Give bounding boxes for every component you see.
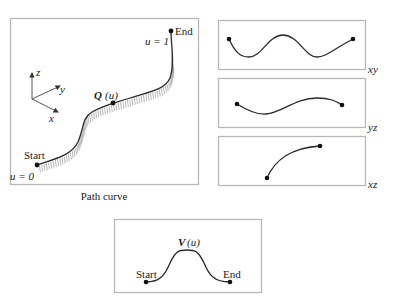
projection-yz-frame	[219, 79, 366, 128]
hatch-line	[130, 99, 131, 106]
velocity-symbol: V	[178, 236, 187, 248]
velocity-start-label: Start	[136, 268, 157, 280]
hatch-line	[127, 100, 128, 107]
hatch-line	[120, 102, 121, 109]
projection-yz-start	[235, 102, 240, 107]
hatch-line	[86, 121, 87, 128]
hatch-line	[90, 115, 91, 122]
hatch-line	[161, 88, 162, 95]
path-curve-caption: Path curve	[81, 190, 128, 202]
hatch-line	[80, 139, 81, 146]
hatch-line	[132, 99, 133, 106]
hatch-line	[102, 108, 103, 115]
velocity-curve	[146, 250, 230, 282]
projection-xz-start	[265, 176, 270, 181]
hatch-line	[169, 82, 170, 89]
projection-yz-label: yz	[367, 121, 378, 133]
u-start-label: u = 0	[10, 170, 34, 182]
end-label: End	[175, 25, 193, 37]
hatch-line	[53, 161, 54, 168]
path-curve-diagram: Start u = 0 End u = 1 Q (u) z y x Path c…	[0, 0, 393, 299]
hatch-line	[153, 92, 154, 99]
start-label: Start	[24, 149, 45, 161]
hatch-line	[60, 158, 61, 165]
hatch-line	[92, 114, 93, 121]
projection-xz-end	[318, 144, 323, 149]
hatch-line	[111, 105, 112, 112]
hatch-line	[68, 154, 69, 161]
projection-xy-curve	[229, 35, 353, 57]
velocity-end-label: End	[223, 268, 241, 280]
projection-xy-end	[351, 37, 356, 42]
hatch-line	[58, 159, 59, 166]
velocity-arg: (u)	[187, 236, 200, 249]
z-axis-label: z	[35, 66, 41, 78]
hatch-line	[87, 119, 88, 126]
hatch-line	[123, 101, 124, 108]
hatch-line	[94, 112, 95, 119]
projection-xz-frame	[219, 137, 366, 186]
velocity-start-point	[144, 280, 149, 285]
hatch-line	[150, 93, 151, 100]
q-point	[111, 101, 116, 106]
hatch-line	[125, 101, 126, 108]
x-axis-label: x	[48, 112, 54, 124]
surface-hatching	[39, 64, 174, 173]
projection-yz-curve	[237, 98, 342, 114]
hatch-line	[62, 157, 63, 164]
hatch-line	[165, 86, 166, 93]
hatch-line	[55, 160, 56, 167]
hatch-line	[155, 91, 156, 98]
hatch-line	[74, 149, 75, 156]
velocity-panel: V (u) Start End	[115, 220, 262, 293]
hatch-line	[70, 153, 71, 160]
hatch-line	[105, 107, 106, 114]
hatch-line	[98, 110, 99, 117]
q-symbol: Q	[94, 89, 102, 101]
hatch-line	[116, 104, 117, 111]
hatch-line	[72, 151, 73, 158]
path-curve-panel: Start u = 0 End u = 1 Q (u) z y x Path c…	[10, 19, 199, 203]
hatch-line	[44, 164, 45, 171]
hatch-line	[109, 106, 110, 113]
hatch-line	[163, 87, 164, 94]
hatch-line	[107, 106, 108, 113]
hatch-line	[46, 163, 47, 170]
hatch-line	[39, 165, 40, 172]
hatch-line	[77, 146, 78, 153]
hatch-line	[96, 111, 97, 118]
projection-xz-panel: xz	[219, 137, 378, 191]
projection-xz-label: xz	[367, 178, 378, 190]
hatch-line	[49, 162, 50, 169]
y-axis-arrow	[32, 86, 60, 99]
hatch-line	[85, 123, 86, 130]
projection-yz-panel: yz	[219, 79, 378, 134]
velocity-end-point	[228, 280, 233, 285]
projection-yz-end	[340, 103, 345, 108]
hatch-line	[141, 96, 142, 103]
axes-triad: z y x	[32, 66, 65, 124]
hatch-line	[66, 155, 67, 162]
y-axis-label: y	[59, 83, 65, 95]
projection-xy-label: xy	[367, 63, 378, 75]
hatch-line	[42, 165, 43, 172]
q-arg: (u)	[105, 89, 118, 102]
hatch-line	[78, 144, 79, 151]
hatch-line	[118, 103, 119, 110]
hatch-line	[100, 109, 101, 116]
hatch-line	[143, 95, 144, 102]
start-point	[35, 163, 40, 168]
velocity-frame	[115, 220, 262, 293]
hatch-line	[51, 162, 52, 169]
hatch-line	[81, 137, 82, 144]
hatch-line	[88, 117, 89, 124]
hatch-line	[159, 90, 160, 97]
hatch-line	[167, 84, 168, 91]
projection-xy-panel: xy	[219, 21, 378, 76]
u-end-label: u = 1	[145, 35, 169, 47]
hatch-line	[157, 91, 158, 98]
x-axis-arrow	[32, 99, 58, 112]
hatch-line	[137, 97, 138, 104]
hatch-line	[79, 141, 80, 148]
hatch-line	[64, 156, 65, 163]
